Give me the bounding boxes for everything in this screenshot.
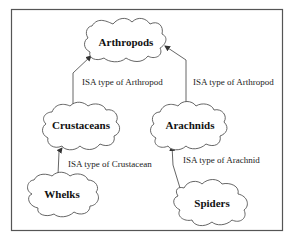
edge-line bbox=[172, 146, 180, 188]
edge-line bbox=[58, 148, 62, 175]
edge-label: ISA type of Crustacean bbox=[68, 159, 152, 169]
edge-label: ISA type of Arthropod bbox=[82, 77, 163, 87]
node-label: Arthropods bbox=[99, 36, 155, 48]
isa-diagram: ISA type of Arthropod ISA type of Arthro… bbox=[0, 0, 290, 244]
node-crustaceans: Crustaceans bbox=[43, 102, 120, 150]
node-whelks: Whelks bbox=[28, 172, 99, 217]
edge-crustaceans-arthropods: ISA type of Arthropod bbox=[73, 56, 163, 106]
edge-label: ISA type of Arachnid bbox=[183, 155, 260, 165]
edge-label: ISA type of Arthropod bbox=[193, 77, 274, 87]
node-label: Spiders bbox=[194, 197, 230, 209]
node-spiders: Spiders bbox=[174, 180, 248, 226]
node-label: Arachnids bbox=[166, 119, 216, 131]
node-arthropods: Arthropods bbox=[85, 18, 166, 61]
edge-whelks-crustaceans: ISA type of Crustacean bbox=[58, 148, 152, 175]
node-label: Whelks bbox=[44, 188, 80, 200]
edge-arachnids-arthropods: ISA type of Arthropod bbox=[165, 46, 274, 104]
node-label: Crustaceans bbox=[52, 119, 111, 131]
edge-line bbox=[165, 46, 186, 104]
node-arachnids: Arachnids bbox=[151, 102, 227, 150]
